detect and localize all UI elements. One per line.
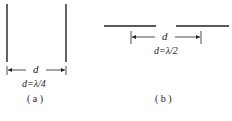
figure-b-arrow-label: d (162, 30, 168, 42)
figure-b-caption: ( b ) (155, 93, 172, 105)
figure-a-arrow-label: d (33, 63, 39, 75)
figure-a-caption: ( a ) (27, 93, 43, 105)
figure-a-dipoles (7, 4, 66, 62)
figure-b-formula: d=λ/2 (154, 45, 178, 57)
figure-a-formula: d=λ/4 (22, 78, 46, 90)
